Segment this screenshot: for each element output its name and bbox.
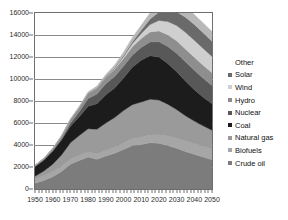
x-axis-tick-mark <box>109 190 110 193</box>
legend-swatch-icon <box>228 136 232 140</box>
x-axis-tick-mark <box>187 190 188 193</box>
x-axis-tick-mark <box>173 190 174 193</box>
x-axis-tick-mark <box>49 190 50 193</box>
x-axis-tick-label: 1970 <box>63 196 79 204</box>
x-axis-tick-mark <box>144 190 145 193</box>
y-axis-tick-label: 12000 <box>10 53 29 61</box>
legend-swatch-icon <box>228 161 232 165</box>
x-axis-tick-mark <box>116 190 117 193</box>
x-axis-tick-label: 2040 <box>187 196 203 204</box>
x-axis-tick-mark <box>77 190 78 193</box>
legend-swatch-icon <box>228 111 232 115</box>
chart-legend: OtherSolarWindHydroNuclearCoalNatural ga… <box>228 56 288 169</box>
y-axis-tick-mark <box>29 57 33 58</box>
legend-item-label: Other <box>235 58 254 67</box>
y-axis-tick-mark <box>29 79 33 80</box>
legend-item-other[interactable]: Other <box>228 56 288 69</box>
x-axis-tick-mark <box>176 190 177 193</box>
x-axis-tick-mark <box>190 190 191 193</box>
x-axis-tick-mark <box>66 190 67 193</box>
y-axis-tick-mark <box>29 35 33 36</box>
legend-item-crude-oil[interactable]: Crude oil <box>228 157 288 170</box>
plot-area <box>34 12 213 190</box>
legend-item-coal[interactable]: Coal <box>228 119 288 132</box>
y-axis-tick-mark <box>29 189 33 190</box>
x-axis-tick-mark <box>52 190 53 193</box>
legend-swatch-icon <box>228 73 232 77</box>
x-axis-tick-mark <box>204 190 205 193</box>
x-axis-tick-mark <box>208 190 209 193</box>
y-axis-tick-label: 4000 <box>13 141 29 149</box>
x-axis-tick-mark <box>151 190 152 193</box>
x-axis-tick-mark <box>212 190 213 193</box>
legend-item-nuclear[interactable]: Nuclear <box>228 106 288 119</box>
x-axis-tick-label: 1990 <box>98 196 114 204</box>
x-axis-tick-mark <box>105 190 106 193</box>
legend-swatch-icon <box>228 123 232 127</box>
x-axis-tick-mark <box>95 190 96 193</box>
x-axis-tick-mark <box>137 190 138 193</box>
x-axis: 1950196019701980199020002010202020302040… <box>34 190 213 214</box>
x-axis-tick-label: 1950 <box>27 196 43 204</box>
x-axis-tick-mark <box>112 190 113 193</box>
legend-item-hydro[interactable]: Hydro <box>228 94 288 107</box>
legend-item-label: Wind <box>235 83 252 92</box>
x-axis-tick-mark <box>169 190 170 193</box>
legend-item-biofuels[interactable]: Biofuels <box>228 144 288 157</box>
x-axis-tick-mark <box>183 190 184 193</box>
x-axis-tick-mark <box>197 190 198 193</box>
x-axis-tick-mark <box>158 190 159 193</box>
x-axis-tick-mark <box>59 190 60 193</box>
y-axis-tick-mark <box>29 123 33 124</box>
x-axis-tick-mark <box>63 190 64 193</box>
legend-item-label: Hydro <box>235 96 255 105</box>
legend-swatch-icon <box>228 85 232 89</box>
x-axis-tick-mark <box>134 190 135 193</box>
y-axis-tick-label: 10000 <box>10 75 29 83</box>
x-axis-tick-mark <box>38 190 39 193</box>
x-axis-tick-mark <box>45 190 46 193</box>
legend-item-label: Natural gas <box>235 133 273 142</box>
x-axis-tick-mark <box>127 190 128 193</box>
legend-item-label: Nuclear <box>235 108 261 117</box>
x-axis-tick-label: 2000 <box>116 196 132 204</box>
y-axis-tick-label: 2000 <box>13 163 29 171</box>
x-axis-tick-label: 2030 <box>169 196 185 204</box>
x-axis-tick-mark <box>130 190 131 193</box>
y-axis-tick-mark <box>29 101 33 102</box>
y-axis-tick-mark <box>29 145 33 146</box>
x-axis-tick-mark <box>73 190 74 193</box>
legend-item-natural-gas[interactable]: Natural gas <box>228 132 288 145</box>
y-axis-tick-mark <box>29 13 33 14</box>
x-axis-tick-mark <box>91 190 92 193</box>
x-axis-tick-label: 2020 <box>151 196 167 204</box>
stacked-area-chart: 0200040006000800010000120001400016000 19… <box>0 0 288 220</box>
x-axis-tick-mark <box>56 190 57 193</box>
x-axis-tick-mark <box>155 190 156 193</box>
x-axis-tick-mark <box>194 190 195 193</box>
stacked-areas <box>35 13 212 189</box>
x-axis-tick-mark <box>81 190 82 193</box>
y-axis-tick-label: 16000 <box>10 9 29 17</box>
legend-item-wind[interactable]: Wind <box>228 81 288 94</box>
x-axis-tick-mark <box>88 190 89 193</box>
x-axis-tick-mark <box>35 190 36 193</box>
x-axis-tick-label: 1980 <box>80 196 96 204</box>
x-axis-tick-mark <box>102 190 103 193</box>
legend-item-solar[interactable]: Solar <box>228 69 288 82</box>
legend-item-label: Crude oil <box>235 159 265 168</box>
legend-item-label: Coal <box>235 121 250 130</box>
x-axis-tick-mark <box>84 190 85 193</box>
legend-swatch-icon <box>228 148 232 152</box>
x-axis-tick-mark <box>180 190 181 193</box>
y-axis-tick-label: 14000 <box>10 31 29 39</box>
x-axis-tick-mark <box>165 190 166 193</box>
x-axis-tick-mark <box>42 190 43 193</box>
legend-item-label: Biofuels <box>235 146 262 155</box>
y-axis-tick-mark <box>29 167 33 168</box>
legend-item-label: Solar <box>235 70 253 79</box>
x-axis-tick-mark <box>123 190 124 193</box>
x-axis-tick-mark <box>148 190 149 193</box>
y-axis-tick-label: 6000 <box>13 119 29 127</box>
y-axis-tick-label: 8000 <box>13 97 29 105</box>
